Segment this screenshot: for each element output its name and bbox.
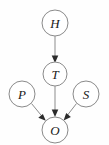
node-label-s: S — [83, 87, 90, 102]
edge-s-to-o — [64, 104, 77, 121]
node-label-p: P — [17, 87, 26, 102]
edge-h-to-t — [52, 36, 59, 63]
arrowhead-p-to-o — [38, 114, 46, 121]
node-group: H T P S O — [9, 10, 99, 143]
arrowhead-t-to-o — [52, 110, 59, 118]
node-label-o: O — [50, 123, 60, 138]
node-h[interactable]: H — [42, 10, 68, 36]
node-p[interactable]: P — [9, 81, 35, 107]
edge-t-to-o — [52, 86, 59, 117]
dag-diagram: H T P S O — [0, 0, 109, 145]
node-s[interactable]: S — [73, 81, 99, 107]
arrowhead-s-to-o — [64, 113, 71, 121]
node-label-h: H — [49, 16, 60, 31]
node-o[interactable]: O — [42, 117, 68, 143]
node-t[interactable]: T — [43, 62, 67, 86]
node-label-t: T — [51, 67, 59, 82]
dag-canvas: H T P S O — [0, 0, 109, 145]
edge-p-to-o — [32, 104, 46, 121]
